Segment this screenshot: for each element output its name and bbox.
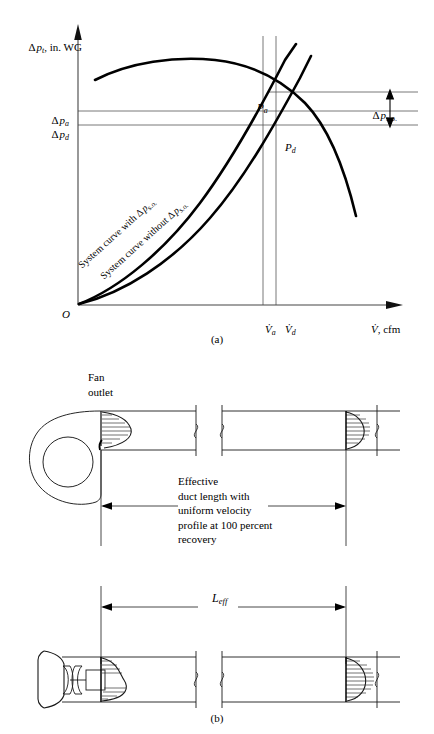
duct-bottom-right: [222, 657, 385, 702]
axial-fan-bellmouth: [38, 651, 64, 708]
effective-length-note: Effective duct length with uniform veloc…: [178, 474, 272, 547]
duct-top-left: [100, 411, 196, 450]
duct-break-top-end: [375, 405, 378, 456]
velocity-profile-fan-outlet: [102, 412, 131, 448]
y-tick-label-delta-pd: Δpd: [41, 115, 69, 155]
origin-label: O: [62, 308, 70, 321]
point-label-pa: Pa: [246, 88, 268, 128]
point-label-pd: Pd: [274, 128, 296, 168]
axial-fan-blades: [63, 666, 105, 694]
panel-b-caption: (b): [0, 712, 434, 724]
duct-top-right: [222, 411, 385, 450]
y-axis-label: Δpt, in. WG: [18, 28, 82, 68]
leff-label: Leff: [200, 577, 227, 621]
fan-pressure-curve: [95, 59, 356, 216]
duct-bottom-left: [62, 657, 196, 702]
figure-root: Δpt, in. WG Δpa Δpd O V̇a V̇d V̇, cfm Pa…: [0, 0, 434, 734]
duct-break-bottom-end: [375, 651, 378, 708]
fan-outlet-label: Fan outlet: [88, 370, 113, 399]
duct-bottom-far-right: [385, 657, 400, 702]
panel-a-caption: (a): [0, 333, 434, 345]
velocity-profile-uniform-top: [346, 411, 370, 450]
duct-top-far-right: [385, 411, 400, 450]
delta-p-so-label: Δps.o.: [362, 96, 397, 136]
fan-scroll-housing: [29, 411, 101, 504]
x-axis: [78, 301, 403, 309]
velocity-profile-uniform-bottom: [346, 657, 374, 702]
duct-break-top-left: [194, 405, 197, 456]
fan-impeller: [43, 437, 93, 487]
duct-break-top-right: [220, 405, 223, 456]
duct-break-bottom-right: [220, 651, 223, 708]
centrifugal-fan-assembly: [29, 411, 102, 504]
duct-break-bottom-left: [194, 651, 197, 708]
